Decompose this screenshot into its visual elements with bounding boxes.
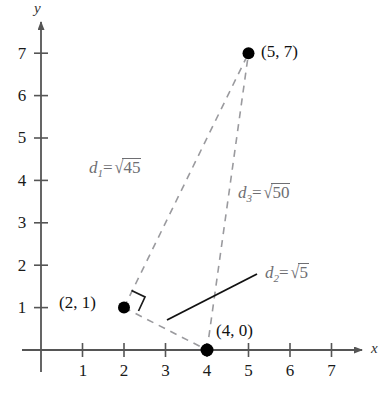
data-point-2-1 <box>118 302 130 314</box>
y-tick-label-5: 5 <box>14 129 30 146</box>
d2-equals: = <box>279 263 289 282</box>
d3-variable: d <box>238 183 247 202</box>
d2-variable: d <box>265 263 274 282</box>
right-angle-marker <box>132 291 146 312</box>
x-tick-label-1: 1 <box>75 362 91 379</box>
y-tick-label-7: 7 <box>14 45 30 62</box>
data-point-4-0 <box>201 344 214 357</box>
y-tick-label-2: 2 <box>14 257 30 274</box>
d1-radicand: 45 <box>122 158 141 176</box>
sqrt-icon: √ <box>263 183 272 201</box>
d3-equals: = <box>252 183 262 202</box>
distance-label-d3: d3=√50 <box>238 183 290 204</box>
x-tick-label-7: 7 <box>324 362 340 379</box>
segment-d1 <box>124 53 249 307</box>
distance-label-d2: d2=√5 <box>265 263 309 284</box>
y-tick-label-3: 3 <box>14 214 30 231</box>
sqrt-icon: √ <box>290 263 299 281</box>
x-tick-label-6: 6 <box>282 362 298 379</box>
distance-label-d1: d1=√45 <box>89 158 141 179</box>
x-tick-label-3: 3 <box>158 362 174 379</box>
sqrt-icon: √ <box>114 158 123 176</box>
d1-equals: = <box>103 158 113 177</box>
point-label-2-1: (2, 1) <box>59 294 96 311</box>
d3-radical: √50 <box>262 183 291 201</box>
y-tick-label-1: 1 <box>14 299 30 316</box>
point-label-4-0: (4, 0) <box>216 322 253 339</box>
d2-radicand: 5 <box>298 263 309 281</box>
data-point-5-7 <box>243 47 255 59</box>
y-tick-label-4: 4 <box>14 172 30 189</box>
d2-leader-line <box>167 274 257 320</box>
d2-radical: √5 <box>289 263 309 281</box>
d1-variable: d <box>89 158 98 177</box>
x-axis-label: x <box>371 341 378 356</box>
y-axis-label: y <box>34 1 41 16</box>
coordinate-plane-figure: y x 1 2 3 4 5 6 7 1 2 3 4 5 6 7 (2, 1) (… <box>0 0 388 397</box>
point-label-5-7: (5, 7) <box>261 43 298 60</box>
x-tick-label-4: 4 <box>199 362 215 379</box>
x-tick-label-2: 2 <box>116 362 132 379</box>
d1-radical: √45 <box>113 158 142 176</box>
y-tick-label-6: 6 <box>14 87 30 104</box>
plot-canvas <box>0 0 388 397</box>
d3-radicand: 50 <box>271 183 290 201</box>
x-tick-label-5: 5 <box>241 362 257 379</box>
